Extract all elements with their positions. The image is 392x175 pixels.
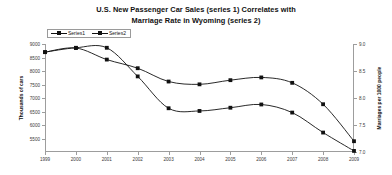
y-axis-left-title: Thousands of cars (16, 44, 26, 152)
series-line-series1 (45, 48, 354, 141)
y-axis-left-tick-label: 6500 (30, 109, 40, 114)
x-axis-tick-label: 2005 (225, 157, 235, 162)
data-point-marker (105, 46, 109, 50)
x-axis-tick-label: 2009 (349, 157, 359, 162)
series-group-series2 (43, 45, 356, 152)
legend-marker-series1-icon (51, 30, 67, 37)
x-axis-tick (230, 152, 231, 155)
y-axis-right-tick (354, 44, 357, 45)
y-axis-right-tick-label: 9.0 (359, 42, 365, 47)
chart-title: U.S. New Passenger Car Sales (series 1) … (0, 5, 392, 26)
data-point-marker (352, 149, 356, 153)
chart-container: U.S. New Passenger Car Sales (series 1) … (0, 0, 392, 175)
legend-marker-series2-icon (92, 30, 108, 37)
y-axis-right-tick-label: 7.0 (359, 150, 365, 155)
x-axis-tick-label: 2002 (133, 157, 143, 162)
x-axis-tick (261, 152, 262, 155)
x-axis-tick-label: 2006 (256, 157, 266, 162)
y-axis-left-tick-label: 7500 (30, 82, 40, 87)
x-axis-tick (138, 152, 139, 155)
y-axis-right-tick (354, 125, 357, 126)
x-axis-tick (292, 152, 293, 155)
x-axis-tick (323, 152, 324, 155)
chart-title-line-1: U.S. New Passenger Car Sales (series 1) … (0, 5, 392, 16)
y-axis-left-tick-label: 6000 (30, 123, 40, 128)
series-group-series1 (43, 46, 356, 143)
y-axis-right-tick-label: 8.0 (359, 96, 365, 101)
x-axis-tick-label: 2008 (318, 157, 328, 162)
legend-label-series2: Series2 (109, 30, 126, 36)
x-axis-tick-label: 2001 (102, 157, 112, 162)
x-axis-tick-label: 2004 (194, 157, 204, 162)
plot-area: 90008500800075007000650060005500 9.08.58… (45, 44, 354, 152)
data-point-marker (198, 109, 202, 113)
data-point-marker (136, 66, 140, 70)
y-axis-left-tick-label: 5500 (30, 136, 40, 141)
y-axis-right-title: Marriages per 1000 people (374, 44, 384, 152)
data-point-marker (352, 139, 356, 143)
x-axis-tick-label: 2003 (163, 157, 173, 162)
y-axis-left-tick-label: 8500 (30, 55, 40, 60)
y-axis-left-tick-label: 9000 (30, 42, 40, 47)
data-point-marker (229, 78, 233, 82)
data-point-marker (321, 102, 325, 106)
data-point-marker (74, 46, 78, 50)
x-axis-tick (45, 152, 46, 155)
x-axis-tick (107, 152, 108, 155)
data-point-marker (167, 106, 171, 110)
y-axis-right-tick (354, 71, 357, 72)
y-axis-left-tick-label: 7000 (30, 96, 40, 101)
data-point-marker (290, 81, 294, 85)
data-point-marker (259, 103, 263, 107)
series-lines (45, 44, 354, 152)
y-axis-right-tick-label: 7.5 (359, 123, 365, 128)
series-line-series2 (45, 45, 354, 150)
y-axis-left-tick-label: 8000 (30, 69, 40, 74)
y-axis-right-tick (354, 98, 357, 99)
data-point-marker (290, 111, 294, 115)
legend-item-series1[interactable]: Series1 (51, 30, 85, 37)
x-axis-tick (169, 152, 170, 155)
data-point-marker (229, 106, 233, 110)
data-point-marker (167, 80, 171, 84)
chart-title-line-2: Marriage Rate in Wyoming (series 2) (0, 16, 392, 27)
data-point-marker (43, 50, 47, 54)
data-point-marker (321, 131, 325, 135)
data-point-marker (136, 75, 140, 79)
legend-item-series2[interactable]: Series2 (92, 30, 126, 37)
x-axis-tick (200, 152, 201, 155)
y-axis-right-tick-label: 8.5 (359, 69, 365, 74)
legend-label-series1: Series1 (68, 30, 85, 36)
data-point-marker (198, 82, 202, 86)
x-axis-tick (76, 152, 77, 155)
chart-legend: Series1 Series2 (47, 29, 131, 38)
x-axis-tick-label: 2000 (71, 157, 81, 162)
x-axis-tick-label: 1999 (40, 157, 50, 162)
x-axis-tick-label: 2007 (287, 157, 297, 162)
data-point-marker (259, 76, 263, 80)
data-point-marker (105, 58, 109, 62)
